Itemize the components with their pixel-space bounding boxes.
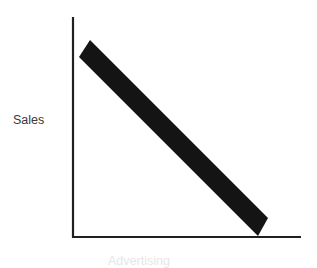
y-axis-label: Sales: [13, 114, 44, 127]
x-axis-label: Advertising: [108, 255, 170, 268]
sales-trend-band: [79, 40, 268, 236]
